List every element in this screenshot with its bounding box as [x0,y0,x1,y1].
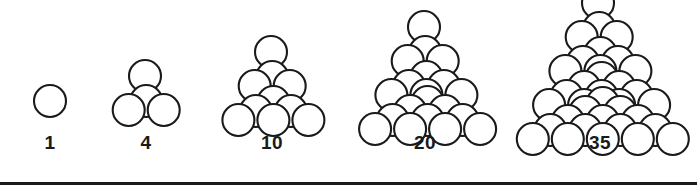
cluster-label-35: 35 [589,133,611,152]
sphere [517,123,549,155]
tetrahedral-number-figure: 1 4 10 20 35 [0,0,697,192]
sphere [622,123,654,155]
sphere-stack-canvas [0,0,697,192]
cluster-label-20: 20 [414,133,436,152]
sphere [464,113,496,145]
cluster-label-10: 10 [261,133,283,152]
sphere-cluster-20 [359,11,496,145]
cluster-label-1: 1 [44,133,55,152]
sphere-cluster-1 [34,85,66,117]
sphere [359,113,391,145]
sphere-cluster-10 [222,36,324,136]
bottom-rule-divider [0,182,697,185]
sphere [113,94,145,126]
sphere [34,85,66,117]
sphere [657,123,689,155]
sphere [148,94,180,126]
sphere [222,104,254,136]
sphere-cluster-4 [113,60,180,126]
sphere [292,104,324,136]
sphere [552,123,584,155]
cluster-label-4: 4 [140,133,151,152]
